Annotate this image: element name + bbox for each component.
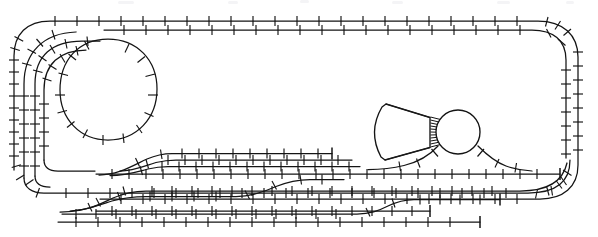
track-bottom-stub-roads xyxy=(58,216,480,228)
track-plan-canvas xyxy=(0,0,598,237)
track-reversing-loop xyxy=(55,39,158,145)
track-main-oval-outer xyxy=(9,16,583,204)
track-plan-drawing xyxy=(0,0,598,237)
track-main-oval-inner xyxy=(19,25,571,199)
track-station-sidings xyxy=(96,148,560,181)
turntable-pit xyxy=(436,110,480,154)
roundhouse-and-turntable xyxy=(368,104,532,173)
track-loop-approach xyxy=(30,37,100,188)
scan-noise xyxy=(118,0,574,4)
